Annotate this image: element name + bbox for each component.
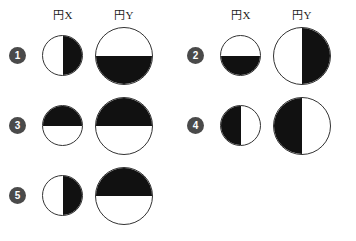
circle-x-header-label: 円X	[40, 6, 86, 22]
item-number-badge: 1	[9, 47, 26, 64]
circle-y	[273, 27, 331, 85]
problem-item: 5	[0, 166, 178, 232]
circle-x-header-label: 円X	[218, 6, 264, 22]
circle-y-shaded-half	[96, 56, 152, 84]
circle-y	[95, 97, 153, 155]
item-number-badge: 5	[9, 187, 26, 204]
item-number-badge: 3	[9, 117, 26, 134]
circle-y	[273, 97, 331, 155]
circle-x	[42, 175, 83, 216]
circle-x-shaded-half	[221, 56, 260, 76]
circle-y-shaded-half	[274, 98, 302, 154]
problem-item: 4	[178, 96, 356, 162]
circle-x	[220, 105, 261, 146]
worksheet-figure: 円X 円Y 1 3 5	[0, 0, 356, 241]
circle-y-header-label: 円Y	[279, 6, 325, 22]
circle-y	[95, 167, 153, 225]
problem-item: 3	[0, 96, 178, 162]
circle-x-shaded-half	[63, 176, 83, 215]
problem-item: 2	[178, 26, 356, 92]
left-column: 円X 円Y 1 3 5	[0, 0, 178, 241]
circle-y-header-label: 円Y	[101, 6, 147, 22]
circle-y-shaded-half	[96, 168, 152, 196]
circle-y-shaded-half	[96, 98, 152, 126]
right-column-header: 円X 円Y	[178, 6, 356, 26]
circle-x-shaded-half	[63, 36, 83, 75]
circle-x	[42, 35, 83, 76]
circle-x-shaded-half	[43, 106, 82, 126]
circle-x-shaded-half	[221, 106, 241, 145]
item-number-badge: 4	[187, 117, 204, 134]
circle-x	[42, 105, 83, 146]
circle-x	[220, 35, 261, 76]
circle-y-shaded-half	[302, 28, 330, 84]
item-number-badge: 2	[187, 47, 204, 64]
right-column: 円X 円Y 2 4	[178, 0, 356, 241]
problem-item: 1	[0, 26, 178, 92]
circle-y	[95, 27, 153, 85]
left-column-header: 円X 円Y	[0, 6, 178, 26]
